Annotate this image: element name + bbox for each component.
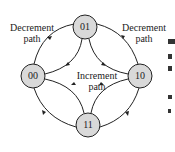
edge-00-to-01 <box>45 39 82 74</box>
text-fragment <box>168 54 172 59</box>
text-fragment <box>168 66 172 71</box>
node-01-label: 01 <box>77 21 93 32</box>
text-fragment <box>168 109 171 113</box>
decrement-path-label-right: Decrement path <box>120 22 168 44</box>
text-fragment <box>168 39 175 44</box>
node-11-label: 11 <box>80 119 96 130</box>
text-fragment <box>168 95 172 99</box>
node-00-label: 00 <box>25 70 41 81</box>
edge-00-to-11 <box>34 88 76 127</box>
node-10-label: 10 <box>132 70 148 81</box>
edge-01-to-10 <box>89 39 128 74</box>
edge-11-to-10 <box>100 88 139 127</box>
decrement-path-label-left: Decrement path <box>8 22 56 44</box>
increment-path-label: Increment path <box>74 70 120 92</box>
